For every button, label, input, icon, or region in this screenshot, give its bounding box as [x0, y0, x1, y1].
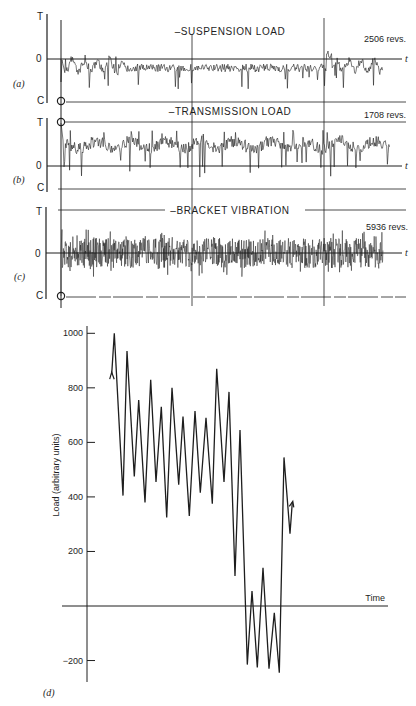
axis-bottom-label: C [36, 290, 43, 301]
panel-label: (d) [43, 687, 55, 699]
figure: T 0 C (a) t –SUSPENSION LOAD 2506 revs. … [0, 0, 416, 706]
y-ticks: 1000800600400200−200 [63, 328, 95, 665]
y-tick-label: 800 [68, 383, 83, 393]
y-tick-label: 1000 [63, 328, 83, 338]
axis-bottom-label: C [37, 182, 44, 193]
x-axis-label: Time [365, 593, 385, 603]
load-history-chart: Time Load (arbitrary units) (d) 10008006… [43, 326, 388, 699]
panel-b: T 0 C (b) t –TRANSMISSION LOAD 1708 revs… [13, 106, 408, 193]
panel-title: –TRANSMISSION LOAD [169, 106, 292, 117]
panel-title: –BRACKET VIBRATION [170, 205, 289, 216]
load-series-points [112, 333, 293, 673]
axis-bottom-label: C [37, 95, 44, 106]
axis-top-label: T [37, 117, 43, 128]
revs-count: 1708 revs. [364, 110, 406, 120]
load-signal [61, 123, 390, 177]
strip-charts: T 0 C (a) t –SUSPENSION LOAD 2506 revs. … [13, 11, 408, 308]
time-axis-label: t [405, 160, 408, 171]
revs-count: 2506 revs. [364, 34, 406, 44]
y-tick-label: −200 [63, 656, 83, 666]
axis-top-label: T [37, 11, 43, 22]
axis-zero-label: 0 [36, 160, 42, 171]
panel-label: (a) [13, 78, 25, 90]
panel-label: (b) [13, 174, 25, 186]
axis-top-label: T [36, 206, 42, 217]
start-arrow-icon [110, 372, 115, 379]
panel-c: T 0 C (c) t –BRACKET VIBRATION 5936 revs… [14, 205, 408, 301]
time-axis-label: t [405, 247, 408, 258]
revs-count: 5936 revs. [366, 222, 408, 232]
load-signal [61, 51, 383, 89]
panel-a: T 0 C (a) t –SUSPENSION LOAD 2506 revs. [13, 11, 408, 106]
y-tick-label: 400 [68, 492, 83, 502]
y-tick-label: 600 [68, 437, 83, 447]
panel-label: (c) [14, 271, 26, 283]
axis-zero-label: 0 [36, 53, 42, 64]
y-axis-label: Load (arbitrary units) [51, 433, 61, 516]
vibration-signal [61, 230, 383, 297]
y-tick-label: 200 [68, 546, 83, 556]
panel-title: –SUSPENSION LOAD [175, 26, 286, 37]
load-series-line [112, 333, 293, 673]
axis-zero-label: 0 [35, 248, 41, 259]
time-axis-label: t [405, 53, 408, 64]
